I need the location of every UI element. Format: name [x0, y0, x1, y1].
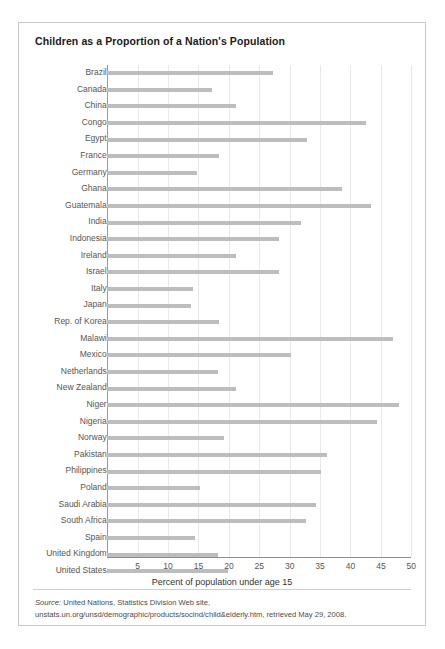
- bar: [107, 470, 320, 474]
- bar: [107, 353, 291, 357]
- category-label: Norway: [0, 432, 107, 442]
- category-label: France: [0, 150, 107, 160]
- bar: [107, 453, 326, 457]
- bar-row: Mexico: [19, 347, 425, 364]
- bar: [107, 88, 212, 92]
- category-label: Israel: [0, 266, 107, 276]
- bar: [107, 536, 195, 540]
- bar-rows: BrazilCanadaChinaCongoEgyptFranceGermany…: [19, 65, 425, 557]
- bar-row: Egypt: [19, 131, 425, 148]
- bar: [107, 337, 393, 341]
- bar: [107, 154, 218, 158]
- bar-track: [107, 281, 409, 298]
- bar-row: India: [19, 214, 425, 231]
- bar-track: [107, 181, 409, 198]
- bar: [107, 420, 377, 424]
- bar-track: [107, 463, 409, 480]
- bar-track: [107, 148, 409, 165]
- bar-row: Pakistan: [19, 447, 425, 464]
- category-label: South Africa: [0, 515, 107, 525]
- bar: [107, 553, 218, 557]
- bar-track: [107, 248, 409, 265]
- bar: [107, 171, 196, 175]
- bar: [107, 237, 278, 241]
- bar-track: [107, 364, 409, 381]
- category-label: Mexico: [0, 349, 107, 359]
- plot-area: BrazilCanadaChinaCongoEgyptFranceGermany…: [19, 65, 425, 557]
- category-label: Ireland: [0, 250, 107, 260]
- bar-row: Italy: [19, 281, 425, 298]
- x-tick-label-15: 15: [194, 561, 203, 571]
- category-label: Niger: [0, 399, 107, 409]
- bar-row: Canada: [19, 82, 425, 99]
- bar-row: Israel: [19, 264, 425, 281]
- bar-row: Germany: [19, 165, 425, 182]
- bar-row: Niger: [19, 397, 425, 414]
- bar-row: South Africa: [19, 513, 425, 530]
- bar-track: [107, 297, 409, 314]
- bar-track: [107, 98, 409, 115]
- category-label: Congo: [0, 117, 107, 127]
- bar-track: [107, 65, 409, 82]
- bar-track: [107, 131, 409, 148]
- x-tick-label-20: 20: [224, 561, 233, 571]
- category-label: Rep. of Korea: [0, 316, 107, 326]
- bar-track: [107, 314, 409, 331]
- category-label: Spain: [0, 532, 107, 542]
- bar: [107, 503, 316, 507]
- category-label: Malawi: [0, 333, 107, 343]
- category-label: Poland: [0, 482, 107, 492]
- bar-track: [107, 430, 409, 447]
- x-tick-label-25: 25: [255, 561, 264, 571]
- x-tick-label-50: 50: [407, 561, 416, 571]
- bar: [107, 403, 399, 407]
- chart-figure-panel: Children as a Proportion of a Nation's P…: [18, 22, 426, 626]
- category-label: Guatemala: [0, 200, 107, 210]
- x-tick-label-40: 40: [346, 561, 355, 571]
- bar-track: [107, 413, 409, 430]
- category-label: New Zealand: [0, 382, 107, 392]
- bar-row: Netherlands: [19, 364, 425, 381]
- category-label: Germany: [0, 167, 107, 177]
- bar: [107, 221, 300, 225]
- bar-track: [107, 480, 409, 497]
- bar-row: Philippines: [19, 463, 425, 480]
- bar: [107, 187, 342, 191]
- bar: [107, 270, 278, 274]
- bar-track: [107, 530, 409, 547]
- bar-track: [107, 347, 409, 364]
- bar: [107, 320, 218, 324]
- bar-track: [107, 115, 409, 132]
- bar-row: Rep. of Korea: [19, 314, 425, 331]
- bar-row: Ghana: [19, 181, 425, 198]
- bar-row: Guatemala: [19, 198, 425, 215]
- category-label: Netherlands: [0, 366, 107, 376]
- bar-track: [107, 380, 409, 397]
- bar-row: Poland: [19, 480, 425, 497]
- bar-track: [107, 397, 409, 414]
- bar-row: Saudi Arabia: [19, 496, 425, 513]
- bar: [107, 121, 365, 125]
- bar-track: [107, 214, 409, 231]
- bar-row: Malawi: [19, 331, 425, 348]
- source-label: Source:: [35, 598, 61, 607]
- bar: [107, 387, 236, 391]
- category-label: Pakistan: [0, 449, 107, 459]
- category-label: India: [0, 216, 107, 226]
- bar-row: Congo: [19, 115, 425, 132]
- bar: [107, 304, 191, 308]
- bar: [107, 254, 236, 258]
- bar-track: [107, 513, 409, 530]
- source-divider: [33, 589, 411, 590]
- bar-row: Japan: [19, 297, 425, 314]
- x-tick-label-35: 35: [315, 561, 324, 571]
- bar-row: France: [19, 148, 425, 165]
- bar-track: [107, 82, 409, 99]
- bar-track: [107, 231, 409, 248]
- bar-row: Nigeria: [19, 413, 425, 430]
- x-axis-label: Percent of population under age 15: [19, 577, 425, 587]
- bar: [107, 519, 305, 523]
- bar: [107, 138, 306, 142]
- bar-track: [107, 165, 409, 182]
- category-label: Philippines: [0, 465, 107, 475]
